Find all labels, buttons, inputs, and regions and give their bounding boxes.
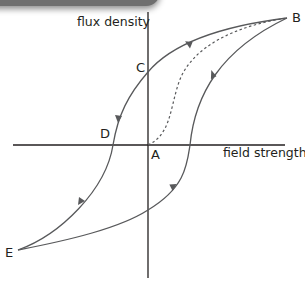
hysteresis-diagram <box>0 0 305 286</box>
y-axis-label: flux density <box>77 16 150 29</box>
initial-magnetization-curve <box>148 18 287 145</box>
arrow-upper-mid <box>115 115 122 123</box>
point-label-c: C <box>136 61 145 74</box>
point-label-b: B <box>292 11 301 24</box>
x-axis-label: field strength <box>223 147 305 160</box>
point-label-e: E <box>5 246 13 259</box>
arrow-upper-top <box>183 39 193 49</box>
upper-branch-curve <box>18 18 287 250</box>
point-label-d: D <box>100 127 110 140</box>
point-label-a: A <box>151 148 160 161</box>
lower-branch-curve <box>18 18 287 250</box>
arrow-lower-bottom <box>167 181 176 191</box>
